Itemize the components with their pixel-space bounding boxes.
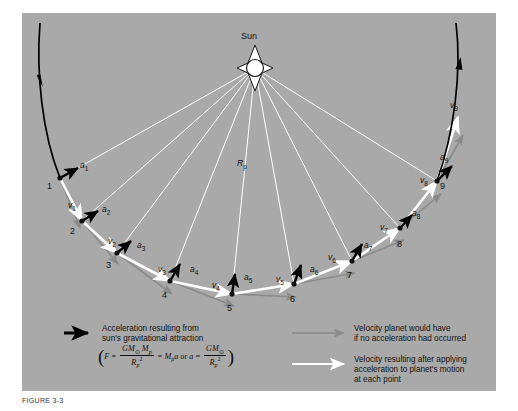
acceleration-label-index: 9 (445, 157, 449, 164)
acceleration-label-index: 2 (107, 209, 111, 216)
velocity-label-index: 6 (332, 257, 336, 264)
acceleration-vectors (60, 166, 452, 294)
legend-accel-line2: sun's gravitational attraction (102, 334, 203, 345)
formula-F: F (104, 352, 109, 361)
formula-sun-symbol-1: ⊙ (135, 349, 140, 355)
formula-den2-sup: 2 (217, 356, 220, 362)
formula-den2-sub: p (214, 362, 217, 368)
legend-applied-line2: acceleration to planet's motion (354, 365, 464, 376)
orbit-point-number-4: 4 (162, 290, 167, 300)
orbit-point-number-6: 6 (290, 294, 295, 304)
formula-a: a (189, 352, 193, 361)
orbit-point-number-3: 3 (106, 260, 111, 270)
formula-Mp-sub: p (149, 349, 152, 355)
velocity-label-5: v5 (276, 275, 284, 287)
acceleration-label-9: a9 (440, 153, 448, 165)
acceleration-label-7: a7 (364, 241, 372, 253)
velocity-label-index: 2 (112, 241, 116, 248)
acceleration-label-index: 6 (315, 269, 319, 276)
acceleration-label-5: a5 (244, 273, 252, 285)
formula-num2: GM (206, 344, 219, 353)
formula-sun-symbol-2: ⊙ (219, 349, 224, 355)
formula-den1-sup: 2 (139, 356, 142, 362)
velocity-nogravity-vectors (60, 135, 463, 306)
acceleration-label-2: a2 (102, 205, 110, 217)
legend-accel-formula: (F = GM⊙ Mp Rp2 = Mpa or a = GM⊙ Rp2 ) (98, 345, 234, 369)
diagram-panel: Sun Rp 123456789 a1a2a3a4a5a6a7a8a9 v1v2… (22, 13, 496, 391)
acceleration-label-4: a4 (190, 265, 198, 277)
orbit-point-number-9: 9 (440, 181, 445, 191)
orbit-radius-label: Rp (237, 159, 247, 171)
orbit-point-number-7: 7 (347, 270, 352, 280)
sun-radius-lines (60, 68, 437, 294)
sun-label: Sun (241, 31, 257, 41)
velocity-resulting-vectors (60, 117, 458, 294)
legend-applied-line3: at each point (354, 375, 401, 386)
velocity-label-index: 9 (454, 105, 458, 112)
velocity-label-index: 1 (72, 205, 76, 212)
formula-close-paren: ) (228, 349, 234, 365)
formula-Mp: M (142, 344, 149, 353)
velocity-label-7: v7 (380, 223, 388, 235)
formula-mid-a: a (174, 352, 178, 361)
figure-caption: FIGURE 3-3 (22, 397, 64, 404)
velocity-label-index: 7 (384, 227, 388, 234)
legend-accel-line1: Acceleration resulting from (102, 324, 199, 335)
velocity-label-index: 4 (216, 285, 220, 292)
acceleration-label-index: 8 (417, 213, 421, 220)
figure-root: Sun Rp 123456789 a1a2a3a4a5a6a7a8a9 v1v2… (0, 0, 518, 411)
orbit-point-number-5: 5 (227, 303, 232, 313)
acceleration-label-1: a1 (80, 161, 88, 173)
acceleration-label-8: a8 (412, 209, 420, 221)
velocity-label-2: v2 (108, 237, 116, 249)
velocity-label-index: 3 (162, 269, 166, 276)
outgoing-arrow-marker (455, 57, 462, 70)
acceleration-label-index: 1 (85, 165, 89, 172)
formula-den1-sub: p (136, 362, 139, 368)
acceleration-label-index: 3 (142, 245, 146, 252)
formula-num1: GM (122, 344, 135, 353)
velocity-label-8: v8 (420, 176, 428, 188)
orbit-point-number-8: 8 (397, 239, 402, 249)
formula-fraction-1: GM⊙ Mp Rp2 (120, 345, 154, 369)
velocity-label-4: v4 (212, 281, 220, 293)
acceleration-label-3: a3 (137, 241, 145, 253)
legend-applied-line1: Velocity resulting after applying (354, 355, 467, 366)
formula-eq2: = (158, 352, 163, 361)
acceleration-label-index: 7 (369, 245, 373, 252)
velocity-label-6: v6 (328, 253, 336, 265)
velocity-label-1: v1 (68, 201, 76, 213)
velocity-label-3: v3 (158, 265, 166, 277)
legend-nograv-line2: if no acceleration had occurred (354, 334, 466, 345)
formula-eq3: = (195, 352, 200, 361)
legend-nograv-line1: Velocity planet would have (354, 324, 451, 335)
orbit-point-number-1: 1 (47, 181, 52, 191)
acceleration-label-index: 4 (195, 269, 199, 276)
velocity-label-9: v9 (450, 101, 458, 113)
formula-or: or (180, 352, 187, 361)
incoming-trajectory-curve (39, 23, 60, 178)
formula-fraction-2: GM⊙ Rp2 (204, 345, 226, 369)
velocity-label-index: 8 (424, 180, 428, 187)
formula-eq1: = (111, 352, 116, 361)
acceleration-label-index: 5 (249, 277, 253, 284)
velocity-label-index: 5 (280, 279, 284, 286)
orbit-point-number-2: 2 (70, 226, 75, 236)
acceleration-label-6: a6 (310, 265, 318, 277)
